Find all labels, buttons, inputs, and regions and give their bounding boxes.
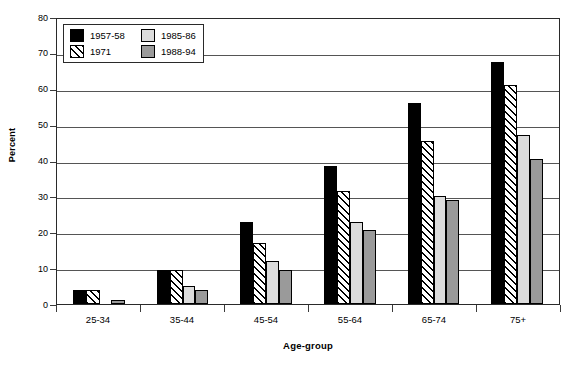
bar	[517, 135, 530, 304]
bar	[446, 200, 459, 304]
bar-group-bars	[491, 19, 543, 304]
x-axis-tick-label: 55-64	[308, 314, 392, 325]
x-axis-tick	[140, 305, 141, 312]
y-axis-tick-labels: 80706050403020100	[22, 18, 48, 305]
legend-item: 1957-58	[70, 29, 125, 42]
bar-group-bars	[324, 19, 376, 304]
y-axis-tick	[50, 54, 56, 55]
bar	[170, 270, 183, 304]
x-axis-title: Age-group	[56, 340, 560, 351]
x-axis-tick	[392, 305, 393, 312]
bar	[157, 270, 170, 304]
legend-swatch-icon	[141, 45, 155, 58]
x-axis-tick	[308, 305, 309, 312]
bar	[324, 166, 337, 304]
x-axis-tick-label: 25-34	[56, 314, 140, 325]
bar	[350, 222, 363, 305]
x-axis-tick	[224, 305, 225, 312]
legend-label: 1985-86	[161, 30, 196, 41]
y-axis-tick	[50, 269, 56, 270]
x-axis-tick	[56, 305, 57, 312]
bar-group	[475, 19, 559, 304]
legend-item: 1971	[70, 45, 125, 58]
bar	[408, 103, 421, 304]
y-axis-tick-label: 60	[22, 85, 48, 94]
y-axis-tick	[50, 126, 56, 127]
bar	[73, 290, 86, 304]
bar	[183, 286, 196, 304]
legend-label: 1971	[90, 46, 111, 57]
y-axis-tick	[50, 18, 56, 19]
y-axis-tick-label: 30	[22, 193, 48, 202]
bar	[504, 85, 517, 304]
bar	[337, 191, 350, 304]
x-axis-tick-labels: 25-3435-4445-5455-6465-7475+	[56, 314, 560, 325]
bar	[253, 243, 266, 304]
y-axis-tick-label: 70	[22, 49, 48, 58]
legend-item: 1988-94	[141, 45, 196, 58]
x-axis-tick	[560, 305, 561, 312]
y-axis-tick	[50, 233, 56, 234]
y-axis-tick	[50, 197, 56, 198]
bar	[86, 290, 99, 304]
chart-legend: 1957-581985-8619711988-94	[63, 24, 204, 63]
legend-swatch-icon	[70, 45, 84, 58]
y-axis-tick	[50, 90, 56, 91]
x-axis-tick	[476, 305, 477, 312]
y-axis-tick-label: 0	[22, 301, 48, 310]
legend-label: 1988-94	[161, 46, 196, 57]
x-axis-tick-label: 35-44	[140, 314, 224, 325]
y-axis-tick	[50, 162, 56, 163]
bar	[240, 222, 253, 305]
bar-chart: Percent 80706050403020100 1957-581985-86…	[0, 0, 576, 370]
bar-group	[308, 19, 392, 304]
legend-swatch-icon	[70, 29, 84, 42]
y-axis-title: Percent	[7, 115, 17, 175]
bar-group	[224, 19, 308, 304]
y-axis-tick-label: 80	[22, 14, 48, 23]
y-axis-tick-label: 40	[22, 157, 48, 166]
bar-group	[392, 19, 476, 304]
bar	[111, 300, 124, 304]
bar	[363, 230, 376, 304]
y-axis-tick-label: 20	[22, 229, 48, 238]
bar	[530, 159, 543, 304]
x-axis-tick-label: 45-54	[224, 314, 308, 325]
bar	[195, 290, 208, 304]
bar	[266, 261, 279, 304]
x-axis-tick-label: 65-74	[392, 314, 476, 325]
bar	[491, 62, 504, 304]
x-axis-tick-label: 75+	[476, 314, 560, 325]
bar-group-bars	[240, 19, 292, 304]
legend-item: 1985-86	[141, 29, 196, 42]
bar	[279, 270, 292, 304]
bar-group-bars	[408, 19, 460, 304]
y-axis-tick-label: 10	[22, 265, 48, 274]
legend-swatch-icon	[141, 29, 155, 42]
y-axis-tick-label: 50	[22, 121, 48, 130]
legend-label: 1957-58	[90, 30, 125, 41]
bar	[421, 141, 434, 304]
bar	[434, 196, 447, 304]
